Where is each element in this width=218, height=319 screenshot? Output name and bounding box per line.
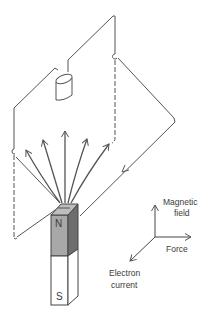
bar-magnet: N S [51,204,78,305]
contact-cylinder [55,72,74,100]
south-label: S [56,291,63,302]
force-label: Force [166,244,188,254]
north-label: N [55,218,62,229]
magnetic-label: Magnetic [163,197,198,207]
magnet-wire-diagram: N S Magnetic field Force Electron curren… [0,0,218,319]
current-label: current [111,280,138,290]
wire-loop [12,16,175,239]
electron-current-arrow [130,237,155,261]
field-label: field [174,208,190,218]
magnetic-field-lines [26,131,109,203]
electron-label: Electron [109,268,140,278]
